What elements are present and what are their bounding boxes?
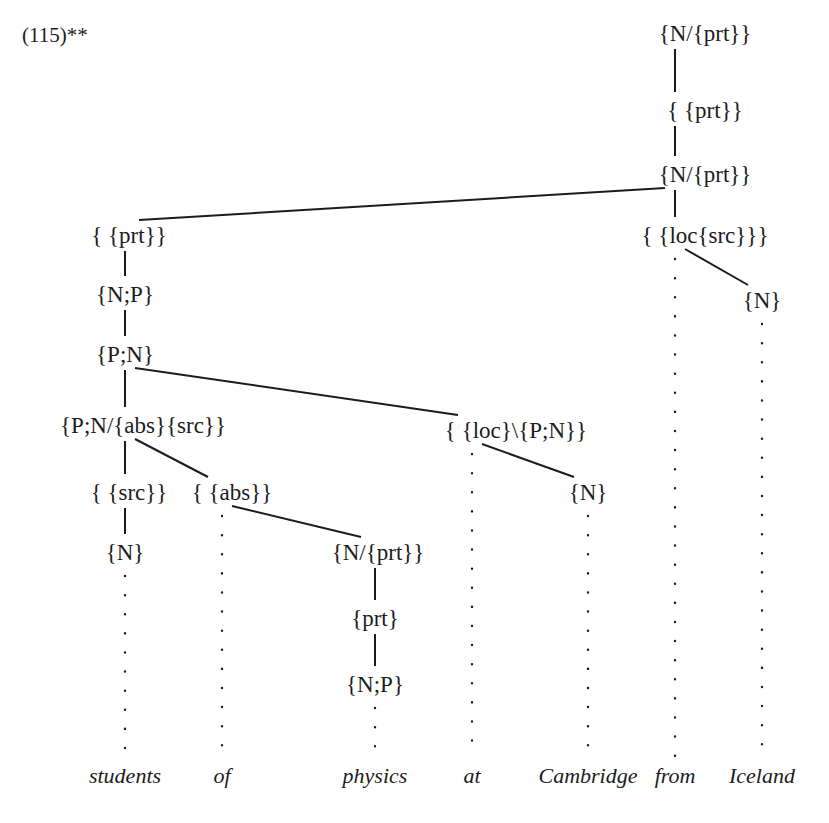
word-at: at: [463, 763, 481, 788]
edge-n11-to-n13: [232, 506, 361, 537]
word-from: from: [655, 763, 696, 788]
word-row-layer: studentsofphysicsatCambridgefromIceland: [89, 763, 796, 788]
tree-node-n7: {N;P}: [96, 282, 154, 307]
tree-node-n15: {N;P}: [346, 672, 404, 697]
tree-node-n11: { {abs}}: [192, 480, 273, 505]
tree-node-n14: {prt}: [351, 606, 399, 631]
tree-node-n6: { {prt}}: [91, 223, 166, 248]
tree-node-n3: {N/{prt}}: [659, 162, 752, 187]
edge-layer: [125, 49, 748, 666]
tree-node-n10: { {src}}: [91, 480, 168, 505]
edge-n4-to-n5: [685, 249, 748, 285]
tree-node-n5: {N}: [743, 288, 782, 313]
node-label-layer: {N/{prt}}{ {prt}}{N/{prt}}{ {loc{src}}}{…: [60, 21, 781, 697]
tree-node-n8: {P;N}: [96, 342, 154, 367]
edge-n8-to-n16: [135, 368, 458, 415]
edge-n16-to-n17: [482, 444, 574, 477]
word-iceland: Iceland: [728, 763, 796, 788]
edge-n9-to-n11: [135, 439, 208, 477]
word-cambridge: Cambridge: [539, 763, 638, 788]
tree-node-n4: { {loc{src}}}: [642, 223, 769, 248]
word-students: students: [89, 763, 161, 788]
example-number: (115)**: [22, 23, 88, 47]
edge-n3-to-n6: [139, 188, 665, 220]
tree-node-n16: { {loc}\{P;N}}: [445, 418, 587, 443]
tree-diagram-figure: {N/{prt}}{ {prt}}{N/{prt}}{ {loc{src}}}{…: [0, 0, 829, 823]
tree-node-n12: {N}: [106, 540, 145, 565]
tree-node-n1: {N/{prt}}: [659, 21, 752, 46]
tree-node-n2: { {prt}}: [667, 98, 742, 123]
tree-node-n13: {N/{prt}}: [332, 540, 425, 565]
word-of: of: [213, 763, 233, 788]
tree-node-n9: {P;N/{abs}{src}}: [60, 413, 226, 438]
tree-node-n17: {N}: [569, 480, 608, 505]
word-physics: physics: [341, 763, 408, 788]
dotted-stem-layer: [125, 259, 762, 758]
tree-svg-canvas: {N/{prt}}{ {prt}}{N/{prt}}{ {loc{src}}}{…: [0, 0, 829, 823]
